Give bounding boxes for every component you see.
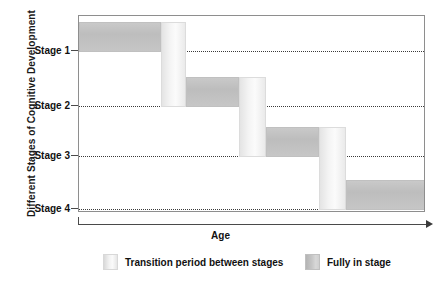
y-tick-label-stage-1: Stage 1 xyxy=(12,45,70,56)
y-tick-mark-stage-4 xyxy=(71,208,78,209)
legend-item-transition: Transition period between stages xyxy=(103,254,283,270)
bar-transition-stage-1-to-2 xyxy=(161,22,186,107)
bar-transition-stage-3-to-4 xyxy=(319,127,346,210)
y-tick-mark-stage-2 xyxy=(71,105,78,106)
x-axis-line xyxy=(78,224,430,225)
legend-swatch-full-icon xyxy=(305,254,320,270)
x-axis-title: Age xyxy=(0,230,441,241)
y-tick-mark-stage-3 xyxy=(71,155,78,156)
bar-full-stage-4 xyxy=(346,180,425,210)
y-tick-label-stage-3: Stage 3 xyxy=(12,150,70,161)
legend-swatch-transition-icon xyxy=(103,254,118,270)
cognitive-development-stage-chart: Different Stages of Cognitive Developmen… xyxy=(0,0,441,287)
legend-label-full: Fully in stage xyxy=(327,257,391,268)
y-tick-label-stage-4: Stage 4 xyxy=(12,203,70,214)
bar-transition-stage-2-to-3 xyxy=(239,77,266,157)
chart-legend: Transition period between stages Fully i… xyxy=(0,252,441,276)
x-axis-arrowhead-icon xyxy=(426,220,433,228)
legend-label-transition: Transition period between stages xyxy=(125,257,283,268)
y-axis-tick-labels: Stage 1 Stage 2 Stage 3 Stage 4 xyxy=(12,0,70,287)
bar-full-stage-2 xyxy=(186,77,239,107)
bar-full-stage-1 xyxy=(79,22,161,52)
bar-full-stage-3 xyxy=(266,127,319,157)
plot-area xyxy=(78,15,425,212)
y-tick-mark-stage-1 xyxy=(71,50,78,51)
legend-item-full: Fully in stage xyxy=(305,254,391,270)
y-tick-label-stage-2: Stage 2 xyxy=(12,100,70,111)
